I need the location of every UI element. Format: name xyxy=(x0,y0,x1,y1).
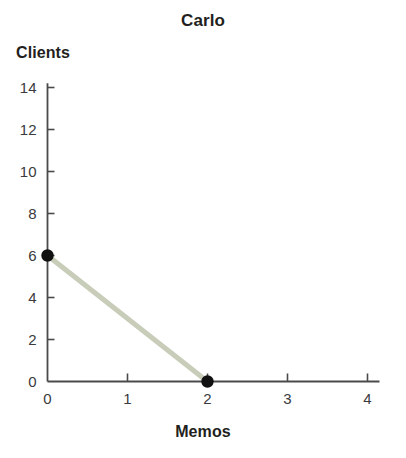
y-tick-label: 14 xyxy=(20,79,37,96)
series-line xyxy=(48,256,208,382)
y-tick-label: 12 xyxy=(20,121,37,138)
chart-container: Carlo Clients Memos 02468101214 01234 xyxy=(0,0,406,458)
x-tick-label: 1 xyxy=(123,390,131,407)
plot-area: 02468101214 01234 xyxy=(0,0,406,458)
y-axis-ticks: 02468101214 xyxy=(20,79,55,390)
x-tick-label: 4 xyxy=(363,390,371,407)
y-tick-label: 8 xyxy=(28,205,36,222)
y-tick-label: 6 xyxy=(28,247,36,264)
data-point-marker xyxy=(41,249,53,261)
y-tick-label: 10 xyxy=(20,163,37,180)
y-tick-label: 2 xyxy=(28,331,36,348)
data-series xyxy=(41,249,213,387)
axis-lines xyxy=(48,83,380,381)
y-tick-label: 4 xyxy=(28,289,36,306)
x-tick-label: 3 xyxy=(283,390,291,407)
x-tick-label: 0 xyxy=(43,390,51,407)
data-point-marker xyxy=(201,375,213,387)
y-tick-label: 0 xyxy=(28,373,36,390)
x-tick-label: 2 xyxy=(203,390,211,407)
